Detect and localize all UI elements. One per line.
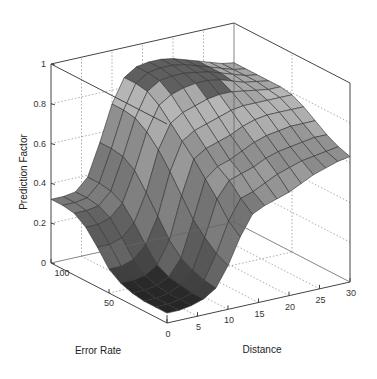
z-tick-label: 0 [41,258,46,268]
x-tick-label: 5 [196,322,201,332]
z-tick [51,144,55,145]
y-tick-label: 50 [104,298,114,308]
z-tick-label: 0.2 [33,218,46,228]
x-tick-label: 30 [346,288,356,298]
box-edge [51,23,234,64]
z-tick [51,104,55,105]
z-tick-label: 0.6 [33,139,46,149]
z-tick-label: 0.8 [33,99,46,109]
z-tick [51,183,55,184]
surface-mesh [51,59,350,314]
x-tick-label: 25 [315,295,325,305]
surface-plot: 00.20.40.60.8105101520253050100 Distance… [0,0,377,379]
y-axis-label: Error Rate [75,345,122,356]
z-tick [51,223,55,224]
z-axis-label: Prediction Factor [18,134,29,210]
x-tick-label: 15 [254,309,264,319]
z-tick-label: 1 [41,59,46,69]
y-tick-label: 100 [54,268,69,278]
z-tick-label: 0.4 [33,178,46,188]
x-axis-label: Distance [243,344,282,355]
x-tick-label: 0 [165,329,170,339]
x-tick-label: 20 [285,302,295,312]
x-tick-label: 10 [224,315,234,325]
